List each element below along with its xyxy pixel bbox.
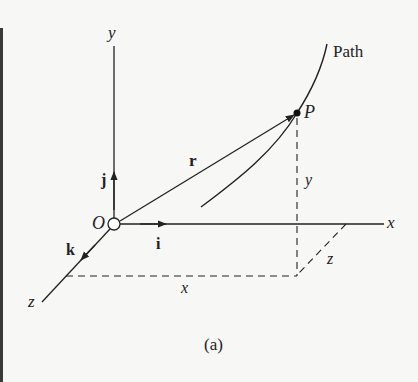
- j-label: j: [101, 172, 106, 188]
- z-component-dashed: [297, 224, 346, 275]
- point-p-label: P: [304, 103, 315, 121]
- k-label: k: [66, 242, 75, 258]
- i-label: i: [156, 236, 160, 252]
- point-p-dot: [294, 110, 301, 117]
- position-vector-label: r: [189, 152, 197, 169]
- figure-caption: (a): [204, 336, 223, 353]
- z-component-label: z: [327, 251, 333, 267]
- position-vector-diagram: y x z O j i k r P Path y x z (a): [0, 0, 418, 382]
- z-axis: [42, 229, 110, 302]
- path-label: Path: [333, 43, 363, 60]
- y-axis-label: y: [108, 24, 116, 41]
- origin-label: O: [92, 214, 105, 232]
- k-unit-vector: [81, 245, 95, 260]
- x-axis-label: x: [387, 214, 395, 231]
- x-component-label: x: [181, 280, 188, 296]
- y-component-label: y: [305, 172, 312, 188]
- position-vector-r: [120, 115, 294, 221]
- z-axis-label: z: [28, 293, 35, 310]
- origin-circle: [108, 218, 120, 230]
